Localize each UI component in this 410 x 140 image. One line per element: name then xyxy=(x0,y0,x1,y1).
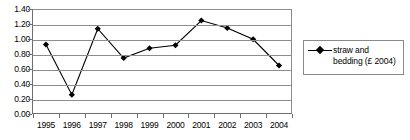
gridline xyxy=(33,100,292,101)
x-tick-mark xyxy=(214,114,215,118)
y-tick-mark xyxy=(28,84,32,85)
data-point-marker xyxy=(69,92,75,98)
legend-label-line1: straw and xyxy=(333,45,369,55)
gridline xyxy=(33,70,292,71)
y-tick-label: 0.20 xyxy=(0,95,30,104)
x-tick-mark xyxy=(266,114,267,118)
x-tick-mark xyxy=(188,114,189,118)
y-tick-label: 0.40 xyxy=(0,80,30,89)
x-tick-mark xyxy=(292,114,293,118)
y-tick-mark xyxy=(28,9,32,10)
y-axis: 0.000.200.400.600.801.001.201.40 xyxy=(0,0,30,113)
y-tick-mark xyxy=(28,99,32,100)
data-point-marker xyxy=(43,41,49,47)
plot-area xyxy=(33,9,292,114)
y-tick-mark xyxy=(28,69,32,70)
x-tick-mark xyxy=(111,114,112,118)
x-tick-label: 2004 xyxy=(262,121,296,130)
y-tick-label: 0.00 xyxy=(0,110,30,119)
y-tick-mark xyxy=(28,39,32,40)
y-tick-label: 1.20 xyxy=(0,20,30,29)
line-chart: 0.000.200.400.600.801.001.201.40 straw a… xyxy=(0,0,410,140)
y-tick-label: 1.00 xyxy=(0,35,30,44)
x-tick-mark xyxy=(163,114,164,118)
y-tick-label: 0.80 xyxy=(0,50,30,59)
x-tick-mark xyxy=(85,114,86,118)
y-tick-label: 0.60 xyxy=(0,65,30,74)
y-tick-mark xyxy=(28,114,32,115)
legend-label: straw and bedding (£ 2004) xyxy=(333,45,396,67)
gridline xyxy=(33,40,292,41)
x-tick-mark xyxy=(33,114,34,118)
y-tick-mark xyxy=(28,54,32,55)
gridline xyxy=(33,25,292,26)
x-tick-mark xyxy=(240,114,241,118)
gridline xyxy=(33,55,292,56)
x-tick-mark xyxy=(59,114,60,118)
y-tick-mark xyxy=(28,24,32,25)
x-tick-mark xyxy=(137,114,138,118)
legend-label-line2: bedding (£ 2004) xyxy=(333,56,396,66)
chart-legend: straw and bedding (£ 2004) xyxy=(303,40,404,75)
data-point-marker xyxy=(146,45,152,51)
legend-item: straw and bedding (£ 2004) xyxy=(307,45,396,67)
gridline xyxy=(33,85,292,86)
legend-marker-icon xyxy=(307,45,333,56)
y-tick-label: 1.40 xyxy=(0,5,30,14)
